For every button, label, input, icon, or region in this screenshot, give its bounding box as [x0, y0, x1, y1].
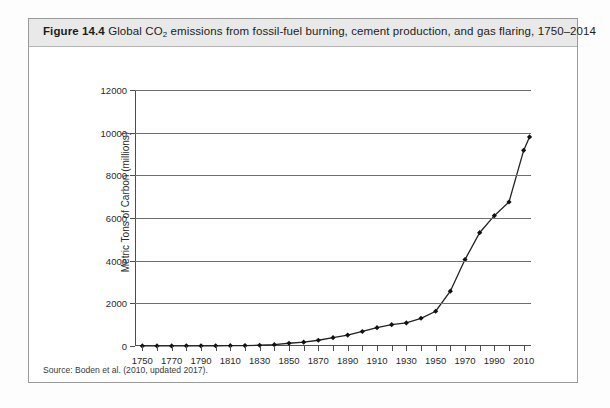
data-point-marker [404, 320, 409, 325]
y-axis-tick-label: 10000 [101, 127, 127, 138]
gridline-y [135, 90, 531, 91]
source-note: Source: Boden et al. (2010, updated 2017… [43, 365, 208, 375]
y-axis-tick [130, 133, 135, 134]
figure-caption-text-1: Global CO [108, 25, 163, 37]
x-axis-tick [289, 346, 290, 351]
x-axis-minor-tick [157, 346, 158, 351]
gridline-y [135, 133, 531, 134]
x-axis-tick [172, 346, 173, 351]
data-point-marker [316, 338, 321, 343]
y-axis-tick-label: 0 [122, 341, 127, 352]
x-axis-minor-tick [245, 346, 246, 351]
x-axis-tick-label: 1870 [308, 355, 329, 366]
x-axis-minor-tick [186, 346, 187, 351]
y-axis-tick-label: 6000 [106, 213, 127, 224]
x-axis-minor-tick [480, 346, 481, 351]
x-axis-tick-label: 1970 [454, 355, 475, 366]
x-axis-tick-label: 1910 [366, 355, 387, 366]
y-axis-tick-label: 4000 [106, 255, 127, 266]
data-point-marker [330, 335, 335, 340]
y-axis-tick-label: 8000 [106, 170, 127, 181]
figure-page: Figure 14.4 Global CO2 emissions from fo… [0, 0, 610, 408]
x-axis-tick [201, 346, 202, 351]
y-axis-tick-label: 12000 [101, 85, 127, 96]
x-axis-tick [377, 346, 378, 351]
y-axis-tick [130, 90, 135, 91]
series-polyline [142, 137, 529, 346]
x-axis-minor-tick [392, 346, 393, 351]
x-axis-tick [260, 346, 261, 351]
x-axis-minor-tick [304, 346, 305, 351]
x-axis-tick-label: 2010 [513, 355, 534, 366]
chart-area: Metric Tons of Carbon (millions) 0200040… [29, 47, 579, 357]
gridline-y [135, 261, 531, 262]
x-axis-tick [318, 346, 319, 351]
x-axis-tick-label: 1850 [278, 355, 299, 366]
x-axis-minor-tick [421, 346, 422, 351]
data-point-marker [527, 134, 532, 139]
gridline-y [135, 175, 531, 176]
gridline-y [135, 303, 531, 304]
y-axis-tick [130, 303, 135, 304]
x-axis-tick [465, 346, 466, 351]
x-axis-minor-tick [274, 346, 275, 351]
x-axis-tick [142, 346, 143, 351]
x-axis-tick [494, 346, 495, 351]
x-axis-tick [348, 346, 349, 351]
y-axis-tick [130, 261, 135, 262]
x-axis-tick [406, 346, 407, 351]
y-axis-tick [130, 218, 135, 219]
x-axis-minor-tick [509, 346, 510, 351]
x-axis-tick-label: 1830 [249, 355, 270, 366]
figure-number: Figure 14.4 [43, 25, 105, 37]
x-axis-tick-label: 1990 [484, 355, 505, 366]
figure-caption: Figure 14.4 Global CO2 emissions from fo… [43, 25, 596, 39]
x-axis-minor-tick [333, 346, 334, 351]
x-axis-tick [436, 346, 437, 351]
y-axis-tick-label: 2000 [106, 298, 127, 309]
x-axis-minor-tick [450, 346, 451, 351]
data-point-marker [521, 148, 526, 153]
figure-caption-text-2: emissions from fossil-fuel burning, ceme… [167, 25, 596, 37]
data-point-marker [360, 329, 365, 334]
data-point-marker [301, 340, 306, 345]
x-axis-minor-tick [362, 346, 363, 351]
y-axis-tick [130, 175, 135, 176]
x-axis-minor-tick [216, 346, 217, 351]
y-axis-title: Metric Tons of Carbon (millions) [120, 132, 131, 272]
x-axis-tick [524, 346, 525, 351]
x-axis-tick-label: 1810 [220, 355, 241, 366]
x-axis-tick-label: 1950 [425, 355, 446, 366]
data-point-marker [374, 325, 379, 330]
data-point-marker [389, 322, 394, 327]
gridline-y [135, 218, 531, 219]
plot-region: 0200040006000800010000120001750177017901… [135, 90, 531, 346]
figure-panel: Figure 14.4 Global CO2 emissions from fo… [28, 18, 578, 383]
data-point-marker [418, 316, 423, 321]
x-axis-tick-label: 1930 [396, 355, 417, 366]
x-axis-tick-label: 1890 [337, 355, 358, 366]
y-axis-tick [130, 346, 135, 347]
data-point-marker [345, 333, 350, 338]
x-axis-tick [230, 346, 231, 351]
